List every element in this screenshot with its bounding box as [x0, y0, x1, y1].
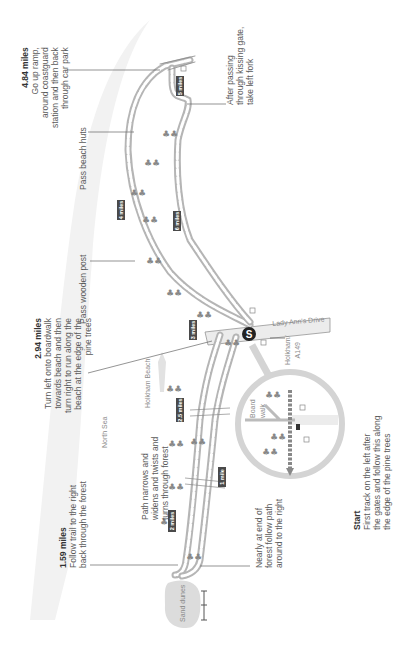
- svg-text:♣♣: ♣♣: [196, 310, 212, 320]
- svg-text:♣♣: ♣♣: [168, 482, 184, 492]
- label-north-sea: North Sea: [100, 416, 110, 448]
- label-sand-dunes: Sand dunes: [178, 585, 188, 622]
- svg-text:♣♣: ♣♣: [168, 439, 184, 449]
- annotation-wooden-post: Pass wooden post: [78, 255, 88, 324]
- svg-text:5 miles: 5 miles: [177, 77, 183, 96]
- annotation-4-84-miles: 4.84 miles Go up ramp, around coastguard…: [20, 47, 70, 128]
- svg-text:S: S: [246, 329, 253, 340]
- svg-text:3 miles: 3 miles: [190, 321, 196, 340]
- gate-icon: [181, 66, 186, 71]
- svg-text:♣♣: ♣♣: [262, 447, 278, 457]
- inset-road: [292, 415, 338, 425]
- annotation-start: Start First track on the left after the …: [352, 416, 392, 530]
- label-board-walk: Board walk: [248, 399, 268, 418]
- label-holkham-a149: Holkham/ A149: [283, 335, 303, 365]
- gate-icon: [261, 340, 266, 345]
- svg-text:♣♣: ♣♣: [186, 552, 202, 562]
- svg-text:♣♣: ♣♣: [166, 384, 182, 394]
- annotation-nearly-end: Nearly at end of forest follow path arou…: [254, 499, 284, 568]
- annotation-path-narrows: Path narrows and widens and twists and t…: [140, 437, 170, 520]
- svg-text:♣♣: ♣♣: [130, 188, 146, 198]
- svg-text:♣♣: ♣♣: [142, 215, 158, 225]
- svg-text:♣♣: ♣♣: [162, 129, 178, 139]
- label-holkham-beach: Holkham Beach: [143, 359, 153, 408]
- svg-text:♣♣: ♣♣: [146, 256, 162, 266]
- annotation-beach-huts: Pass beach huts: [78, 127, 88, 190]
- svg-text:♣♣: ♣♣: [224, 338, 240, 348]
- holkham-beach-bar: [158, 352, 166, 392]
- annotation-1-59-miles: 1.59 miles Follow trail to the right bac…: [58, 481, 88, 568]
- svg-text:♣♣: ♣♣: [144, 158, 160, 168]
- svg-text:♣♣: ♣♣: [190, 437, 206, 447]
- svg-text:2.5 miles: 2.5 miles: [177, 398, 183, 421]
- svg-text:♣♣: ♣♣: [166, 288, 182, 298]
- annotation-2-94-miles: 2.94 miles Turn left onto boardwalk towa…: [33, 318, 93, 413]
- svg-text:♣♣: ♣♣: [270, 432, 286, 442]
- svg-text:4 miles: 4 miles: [118, 201, 124, 220]
- annotation-kissing-gate: After passing through kissing gate, take…: [225, 27, 255, 105]
- gate-icon: [250, 308, 255, 313]
- svg-text:1 mile: 1 mile: [219, 469, 225, 485]
- svg-text:6 miles: 6 miles: [174, 212, 180, 231]
